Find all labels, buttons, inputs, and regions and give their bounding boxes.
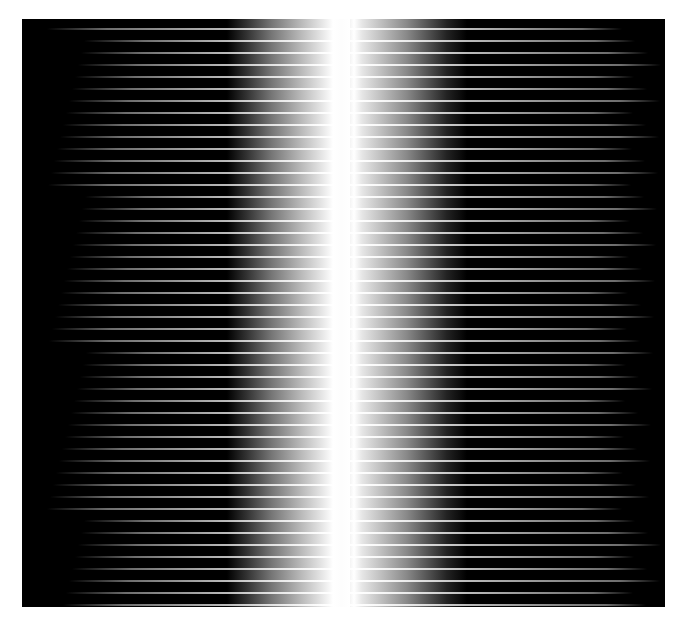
center-white-band (333, 19, 350, 607)
striped-gradient-figure (22, 19, 665, 607)
